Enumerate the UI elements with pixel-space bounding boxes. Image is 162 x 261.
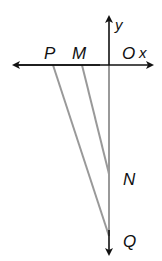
segment-pq xyxy=(53,65,109,236)
point-label-n: N xyxy=(123,170,136,189)
segment-mn xyxy=(82,65,109,174)
y-axis-label: y xyxy=(114,16,124,33)
coordinate-diagram: y x O P M N Q xyxy=(0,0,162,261)
x-axis-label: x xyxy=(138,44,147,61)
point-label-p: P xyxy=(44,44,56,63)
point-label-o: O xyxy=(122,44,135,63)
point-label-m: M xyxy=(72,44,87,63)
point-label-q: Q xyxy=(123,232,136,251)
